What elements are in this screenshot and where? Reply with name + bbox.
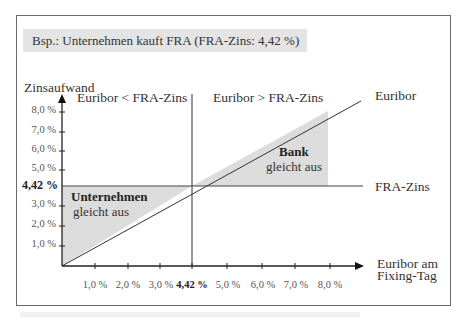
unternehmen-sublabel: gleicht aus xyxy=(73,204,129,220)
x-tick-8: 8,0 % xyxy=(310,279,350,290)
y-tick-1: 1,0 % xyxy=(14,238,56,249)
y-tick-8: 8,0 % xyxy=(14,104,56,115)
bank-sublabel: gleicht aus xyxy=(266,159,322,175)
y-tick-6: 6,0 % xyxy=(14,143,56,154)
x-axis-arrow-icon xyxy=(355,262,364,270)
x-tick-5: 5,0 % xyxy=(208,279,248,290)
euribor-label: Euribor xyxy=(375,88,416,104)
x-axis-title-line2: Fixing-Tag xyxy=(377,269,437,282)
unternehmen-label: Unternehmen xyxy=(71,189,148,205)
y-tick-2: 2,0 % xyxy=(14,218,56,229)
region-right-header: Euribor > FRA-Zins xyxy=(213,90,323,106)
fra-zins-label: FRA-Zins xyxy=(375,179,430,195)
x-tick-442: 4,42 % xyxy=(172,279,212,290)
region-left-header: Euribor < FRA-Zins xyxy=(77,90,187,106)
y-tick-7: 7,0 % xyxy=(14,124,56,135)
bank-label: Bank xyxy=(279,144,309,160)
faded-caption xyxy=(20,312,360,317)
y-tick-442: 4,42 % xyxy=(14,178,58,193)
y-tick-3: 3,0 % xyxy=(14,198,56,209)
y-tick-5: 5,0 % xyxy=(14,162,56,173)
